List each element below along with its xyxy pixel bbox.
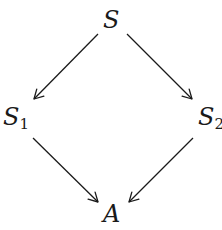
node-s1-label: S bbox=[3, 103, 19, 131]
node-s2-label: S bbox=[198, 103, 214, 131]
node-s-label: S bbox=[103, 6, 119, 34]
diagram-arrows bbox=[0, 0, 222, 230]
arrow-s2-to-a bbox=[129, 138, 193, 202]
node-s1: S1 bbox=[3, 105, 29, 129]
node-a-label: A bbox=[103, 200, 120, 228]
node-a: A bbox=[103, 202, 120, 226]
commutative-diagram: S S1 S2 A bbox=[0, 0, 222, 230]
arrow-s1-to-a bbox=[33, 138, 98, 202]
node-s: S bbox=[103, 8, 119, 32]
node-s2-subscript: 2 bbox=[214, 115, 222, 133]
arrow-s-to-s2 bbox=[127, 34, 192, 99]
node-s2: S2 bbox=[198, 105, 222, 129]
arrow-s-to-s1 bbox=[34, 34, 98, 99]
node-s1-subscript: 1 bbox=[19, 115, 29, 133]
